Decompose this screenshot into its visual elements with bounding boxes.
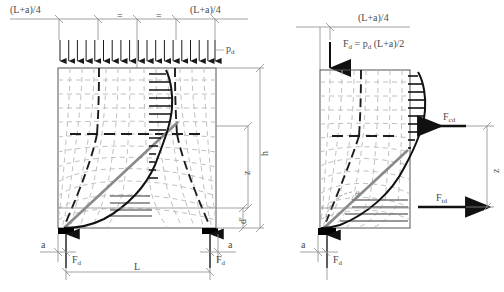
diagram-vector-layer xyxy=(0,0,504,292)
left-beam-outline xyxy=(58,68,216,228)
right-panel-reaction-label: Fd xyxy=(333,255,342,267)
right-top-dim-label: (L+a)/4 xyxy=(358,13,389,23)
left-support-a-label: a xyxy=(41,240,45,250)
dimension-label-h: h xyxy=(260,151,270,156)
left-vertical-dimensions xyxy=(216,64,264,232)
tension-force-label: Ftd xyxy=(436,193,447,205)
left-crack-trajectory-field xyxy=(57,68,217,228)
left-bottom-dimensions xyxy=(40,234,236,280)
left-top-dimension-line xyxy=(10,15,248,68)
equal-mark-2: = xyxy=(156,11,162,21)
right-lever-arm-dimension xyxy=(466,122,494,211)
right-panel-group xyxy=(296,23,494,280)
left-top-dim-left-label: (L+a)/4 xyxy=(10,5,41,15)
angle-theta-label: θ xyxy=(355,190,359,199)
dimension-label-z: z xyxy=(242,171,252,175)
right-support-a-label: a xyxy=(301,240,305,250)
right-support-block xyxy=(318,228,336,235)
left-bold-strut-cracks xyxy=(66,68,208,222)
distributed-load-label: pd xyxy=(226,44,235,56)
dimension-label-d-prime: d' xyxy=(238,217,248,224)
left-reaction-label: Fd xyxy=(72,255,81,267)
right-reaction-label: Fd xyxy=(216,255,225,267)
right-support-a-label: a xyxy=(228,240,232,250)
distributed-load-arrows xyxy=(60,40,215,61)
left-top-dim-right-label: (L+a)/4 xyxy=(190,5,221,15)
lever-arm-label-z: z xyxy=(491,169,501,173)
span-label-L: L xyxy=(134,262,140,272)
figure-root: (L+a)/4 (L+a)/4 = = pd h z d' a a Fd Fd … xyxy=(0,0,504,292)
equal-mark-1: = xyxy=(117,11,123,21)
resultant-force-equation: Fd = pd (L+a)/2 xyxy=(343,39,404,51)
left-support-block-left xyxy=(58,228,74,234)
right-inclined-strut-resultant xyxy=(324,150,408,228)
left-support-block-right xyxy=(202,228,218,234)
compression-force-label: Fcd xyxy=(443,112,455,124)
